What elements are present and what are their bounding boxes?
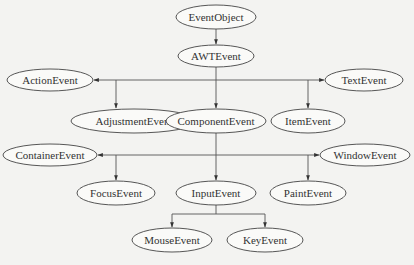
node-label: KeyEvent — [243, 234, 287, 246]
node-componentevent: ComponentEvent — [166, 109, 266, 133]
diagram-svg: EventObject AWTEvent ActionEvent TextEve… — [0, 0, 414, 265]
node-mouseevent: MouseEvent — [132, 228, 212, 252]
node-actionevent: ActionEvent — [7, 69, 93, 91]
node-label: AWTEvent — [191, 50, 241, 62]
nodes: EventObject AWTEvent ActionEvent TextEve… — [3, 5, 410, 252]
node-label: FocusEvent — [90, 187, 142, 199]
node-label: ComponentEvent — [178, 115, 255, 127]
node-label: ItemEvent — [285, 115, 331, 127]
node-textevent: TextEvent — [325, 69, 403, 91]
class-hierarchy-diagram: EventObject AWTEvent ActionEvent TextEve… — [0, 0, 414, 265]
node-paintevent: PaintEvent — [270, 181, 346, 205]
node-label: MouseEvent — [144, 234, 200, 246]
node-keyevent: KeyEvent — [227, 228, 303, 252]
node-label: WindowEvent — [333, 149, 396, 161]
node-itemevent: ItemEvent — [271, 109, 345, 133]
node-windowevent: WindowEvent — [320, 144, 410, 166]
node-label: InputEvent — [192, 187, 241, 199]
node-focusevent: FocusEvent — [77, 181, 155, 205]
node-label: ContainerEvent — [15, 149, 84, 161]
node-awtevent: AWTEvent — [178, 45, 254, 67]
node-label: AdjustmentEvent — [96, 115, 173, 127]
node-eventobject: EventObject — [176, 5, 256, 29]
node-inputevent: InputEvent — [176, 181, 256, 205]
node-label: PaintEvent — [284, 187, 332, 199]
node-label: ActionEvent — [22, 74, 78, 86]
node-containerevent: ContainerEvent — [3, 144, 97, 166]
node-label: EventObject — [189, 11, 244, 23]
node-label: TextEvent — [341, 74, 386, 86]
